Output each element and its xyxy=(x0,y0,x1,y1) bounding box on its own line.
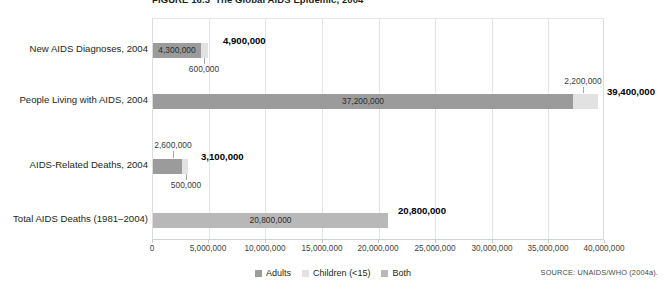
legend-item-adults: Adults xyxy=(255,268,291,278)
bar-total-label: 4,900,000 xyxy=(223,33,266,48)
callout-leader-line xyxy=(173,151,174,158)
bar-value-both: 20,800,000 xyxy=(153,213,388,228)
bar-segment-children xyxy=(573,94,598,109)
bar-value-children: 2,200,000 xyxy=(553,76,613,86)
x-tick-label: 10,000,000 xyxy=(245,244,286,253)
x-tick-mark xyxy=(604,240,605,243)
category-label-total-deaths: Total AIDS Deaths (1981–2004) xyxy=(0,202,148,236)
figure-number: FIGURE 16.3 xyxy=(152,0,210,5)
bar-segment-adults xyxy=(153,159,182,174)
category-label-people-living: People Living with AIDS, 2004 xyxy=(0,83,148,117)
x-tick-mark xyxy=(378,240,379,243)
x-tick-mark xyxy=(152,240,153,243)
x-tick-label: 5,000,000 xyxy=(190,244,226,253)
plot-area: 4,300,000 4,900,000 600,000 37,200,000 3… xyxy=(152,18,604,240)
legend-swatch-children xyxy=(302,270,309,277)
x-tick-label: 15,000,000 xyxy=(302,244,343,253)
figure-title-text: The Global AIDS Epidemic, 2004 xyxy=(215,0,363,5)
legend-label-children: Children (<15) xyxy=(313,268,370,278)
stacked-bar xyxy=(153,159,188,174)
legend-swatch-adults xyxy=(255,270,262,277)
bar-total-label: 39,400,000 xyxy=(607,84,655,99)
x-tick-mark xyxy=(265,240,266,243)
figure-container: FIGURE 16.3The Global AIDS Epidemic, 200… xyxy=(0,0,666,299)
legend-label-both: Both xyxy=(392,268,411,278)
x-tick-label: 35,000,000 xyxy=(528,244,569,253)
bar-row: 4,300,000 4,900,000 600,000 xyxy=(153,33,603,67)
category-label-new-diagnoses: New AIDS Diagnoses, 2004 xyxy=(0,32,148,66)
bar-value-adults: 2,600,000 xyxy=(143,140,203,150)
legend-item-both: Both xyxy=(381,268,411,278)
bar-row: 37,200,000 39,400,000 2,200,000 xyxy=(153,84,603,118)
bar-row: 3,100,000 2,600,000 500,000 xyxy=(153,149,603,183)
bar-value-children: 500,000 xyxy=(156,180,216,190)
bar-segment-children xyxy=(201,43,208,58)
legend-swatch-both xyxy=(381,270,388,277)
bar-value-adults: 37,200,000 xyxy=(153,94,573,109)
bar-total-label: 20,800,000 xyxy=(398,203,446,218)
x-axis: 0 5,000,000 10,000,000 15,000,000 20,000… xyxy=(152,240,604,258)
stacked-bar: 37,200,000 xyxy=(153,94,598,109)
x-tick-mark xyxy=(435,240,436,243)
bar-row: 20,800,000 20,800,000 xyxy=(153,203,603,237)
bar-segment-children xyxy=(182,159,188,174)
x-tick-label: 0 xyxy=(150,244,155,253)
figure-title: FIGURE 16.3The Global AIDS Epidemic, 200… xyxy=(152,0,612,6)
callout-leader-line xyxy=(583,87,584,93)
stacked-bar: 20,800,000 xyxy=(153,213,388,228)
x-tick-label: 25,000,000 xyxy=(415,244,456,253)
x-tick-mark xyxy=(492,240,493,243)
bar-total-label: 3,100,000 xyxy=(201,149,244,164)
legend-label-adults: Adults xyxy=(266,268,291,278)
source-note: SOURCE: UNAIDS/WHO (2004a). xyxy=(541,268,658,277)
bar-value-children: 600,000 xyxy=(174,64,234,74)
x-tick-mark xyxy=(548,240,549,243)
legend-item-children: Children (<15) xyxy=(302,268,370,278)
x-tick-label: 40,000,000 xyxy=(584,244,625,253)
x-tick-mark xyxy=(322,240,323,243)
x-tick-label: 30,000,000 xyxy=(472,244,513,253)
stacked-bar: 4,300,000 xyxy=(153,43,208,58)
category-label-related-deaths: AIDS-Related Deaths, 2004 xyxy=(0,148,148,182)
x-tick-mark xyxy=(208,240,209,243)
x-tick-label: 20,000,000 xyxy=(358,244,399,253)
bar-value-adults: 4,300,000 xyxy=(153,43,201,58)
